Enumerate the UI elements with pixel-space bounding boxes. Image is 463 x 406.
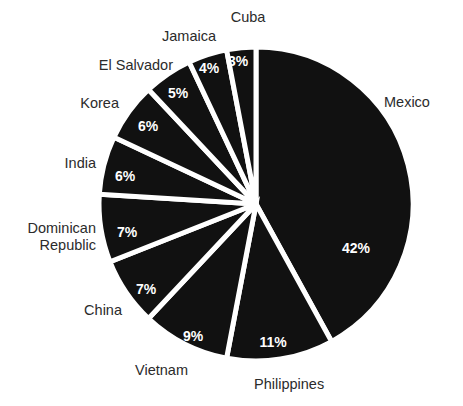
slice-percent-label-india: 6% — [115, 168, 136, 184]
slice-category-label-korea: Korea — [80, 95, 120, 111]
slice-category-label-china: China — [84, 302, 123, 318]
label-line: Dominican — [28, 220, 97, 236]
label-line: Republic — [40, 237, 96, 253]
slice-percent-label-philippines: 11% — [259, 334, 287, 350]
label-line: Mexico — [384, 94, 430, 110]
slice-category-label-mexico: Mexico — [384, 94, 430, 110]
slice-category-label-philippines: Philippines — [254, 376, 324, 392]
label-line: China — [84, 302, 123, 318]
slice-percent-label-jamaica: 4% — [199, 60, 220, 76]
label-line: Vietnam — [135, 362, 188, 378]
pie-chart-svg: 42%11%9%7%7%6%6%5%4%3% MexicoPhilippines… — [0, 0, 463, 406]
slice-percent-label-vietnam: 9% — [183, 328, 204, 344]
label-line: Cuba — [231, 9, 267, 25]
slice-percent-label-dominican-republic: 7% — [117, 224, 138, 240]
label-line: Philippines — [254, 376, 324, 392]
pie-slices-group — [99, 47, 413, 361]
slice-percent-label-cuba: 3% — [228, 53, 249, 69]
label-line: Korea — [80, 95, 120, 111]
label-line: Jamaica — [162, 28, 217, 44]
label-line: El Salvador — [99, 57, 173, 73]
slice-category-label-india: India — [65, 155, 97, 171]
slice-percent-label-mexico: 42% — [342, 240, 371, 256]
slice-percent-label-el-salvador: 5% — [168, 85, 189, 101]
slice-percent-label-china: 7% — [136, 281, 157, 297]
label-line: India — [65, 155, 97, 171]
slice-percent-label-korea: 6% — [138, 118, 159, 134]
slice-category-label-el-salvador: El Salvador — [99, 57, 173, 73]
slice-category-label-jamaica: Jamaica — [162, 28, 217, 44]
pie-chart-figure: 42%11%9%7%7%6%6%5%4%3% MexicoPhilippines… — [0, 0, 463, 406]
slice-category-label-vietnam: Vietnam — [135, 362, 188, 378]
slice-category-label-cuba: Cuba — [231, 9, 267, 25]
